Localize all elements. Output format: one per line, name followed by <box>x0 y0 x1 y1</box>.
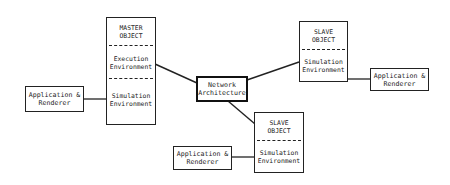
slave-simulation-environment: Simulation Environment <box>255 142 303 172</box>
section-divider <box>302 49 345 50</box>
slave-object-title: SLAVE OBJECT <box>300 22 347 49</box>
master-object-box: MASTER OBJECT Execution Environment Simu… <box>106 17 156 125</box>
slave-object-box-bottom: SLAVE OBJECT Simulation Environment <box>254 112 304 173</box>
network-architecture-box: Network Architecture <box>196 76 248 102</box>
master-object-title: MASTER OBJECT <box>107 18 155 45</box>
section-divider <box>109 78 153 79</box>
application-renderer-right: Application & Renderer <box>370 68 429 91</box>
application-renderer-left: Application & Renderer <box>25 86 84 112</box>
application-renderer-bottom: Application & Renderer <box>173 146 232 170</box>
master-simulation-environment: Simulation Environment <box>107 80 155 120</box>
slave-simulation-environment: Simulation Environment <box>300 51 347 81</box>
master-execution-environment: Execution Environment <box>107 47 155 78</box>
slave-object-box-top: SLAVE OBJECT Simulation Environment <box>299 21 348 82</box>
section-divider <box>257 140 301 141</box>
slave-object-title: SLAVE OBJECT <box>255 113 303 140</box>
section-divider <box>109 45 153 46</box>
